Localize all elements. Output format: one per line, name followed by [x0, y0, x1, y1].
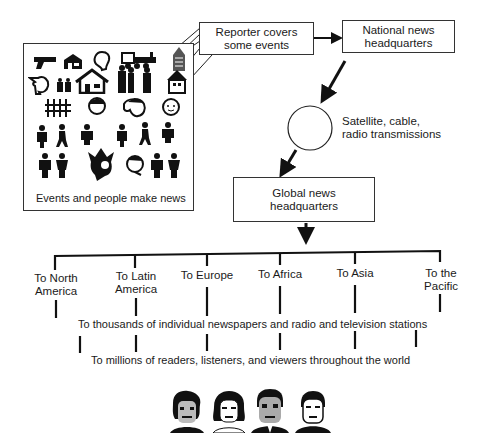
region-north-america: To North America [33, 272, 79, 298]
tier2-text: To thousands of individual newspapers an… [78, 318, 427, 331]
region-label-line1: To North [33, 272, 79, 285]
tier3-text: To millions of readers, listeners, and v… [91, 354, 410, 367]
region-label-line1: To Europe [180, 269, 234, 282]
walker-icon [138, 122, 152, 146]
global-hq-box: Global news headquarters [233, 177, 375, 222]
global-line1: Global news [272, 187, 335, 200]
man-face-icon [294, 389, 332, 433]
region-label-line2: America [33, 285, 79, 298]
face-icon [86, 96, 108, 118]
figure-icon [79, 124, 95, 146]
events-caption: Events and people make news [36, 192, 186, 204]
couple-icon [148, 153, 184, 179]
distribution-bar [55, 251, 440, 270]
region-label-line2: America [113, 283, 159, 296]
satellite-line1: Satellite, cable, [342, 115, 441, 128]
reporter-line1: Reporter covers [216, 26, 298, 39]
region-pacific: To the Pacific [420, 267, 462, 293]
person-icon [35, 125, 49, 149]
arrow-national-to-satellite [325, 61, 345, 96]
figure-icon [160, 122, 176, 144]
global-line2: headquarters [270, 200, 338, 213]
region-label-line1: To the [420, 267, 462, 280]
region-latin-america: To Latin America [113, 270, 159, 296]
region-label-line1: To Asia [334, 267, 376, 280]
people-group-icon [116, 64, 156, 94]
man-face-icon [250, 387, 290, 433]
tier3-ticks [80, 330, 416, 353]
region-africa: To Africa [254, 268, 306, 281]
woman-face-icon [168, 389, 206, 433]
dancers-icon [44, 97, 72, 119]
pistol-icon [32, 54, 58, 70]
family-icon [55, 77, 73, 93]
arrow-satellite-to-global [284, 150, 296, 170]
jester-icon [85, 146, 117, 182]
national-line2: headquarters [365, 37, 433, 50]
region-asia: To Asia [334, 267, 376, 280]
reporter-box: Reporter covers some events [199, 22, 314, 55]
walker-icon [55, 124, 69, 148]
national-line1: National news [362, 24, 434, 37]
satellite-line2: radio transmissions [342, 128, 441, 141]
couple-icon [36, 153, 72, 179]
region-europe: To Europe [180, 269, 234, 282]
national-hq-box: National news headquarters [342, 20, 455, 53]
reporter-line2: some events [224, 39, 289, 52]
man-face-icon [124, 154, 146, 176]
house-small-icon [166, 68, 188, 94]
woman-face-icon [210, 389, 248, 433]
person-icon [115, 124, 129, 148]
profile-head-icon [28, 73, 50, 95]
woman-face-icon [122, 96, 148, 118]
region-label-line1: To Latin [113, 270, 159, 283]
region-label-line1: To Africa [254, 268, 306, 281]
satellite-circle [288, 106, 332, 150]
baby-face-icon [160, 96, 182, 118]
satellite-label: Satellite, cable, radio transmissions [342, 115, 441, 141]
house-icon [75, 68, 109, 94]
region-label-line2: Pacific [420, 280, 462, 293]
